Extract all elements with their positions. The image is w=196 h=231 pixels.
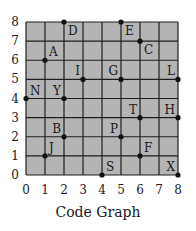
x-tick-label: 3: [79, 183, 87, 197]
point-label-y: Y: [52, 84, 62, 98]
data-point-i: [80, 77, 85, 82]
data-point-x: [175, 172, 180, 177]
data-point-b: [61, 134, 66, 139]
point-label-s: S: [106, 160, 114, 174]
point-label-f: F: [144, 141, 152, 155]
point-label-g: G: [108, 64, 118, 78]
y-tick-label: 7: [11, 34, 19, 48]
point-label-i: I: [75, 64, 80, 78]
y-tick-label: 1: [11, 149, 19, 163]
point-label-n: N: [30, 84, 41, 98]
y-tick-label: 8: [11, 15, 19, 29]
y-tick-label: 3: [11, 111, 19, 125]
data-point-p: [118, 134, 123, 139]
x-tick-label: 5: [117, 183, 125, 197]
point-label-j: J: [47, 141, 54, 155]
point-label-d: D: [68, 24, 78, 38]
code-graph-chart: 012345678012345678DECAIGLNYTHBPJFSX: [0, 0, 196, 231]
x-tick-label: 7: [155, 183, 163, 197]
y-tick-label: 0: [11, 168, 19, 182]
x-tick-label: 4: [98, 183, 106, 197]
data-point-y: [61, 96, 66, 101]
point-label-e: E: [125, 24, 134, 38]
x-tick-label: 0: [22, 183, 30, 197]
chart-title: Code Graph: [0, 204, 196, 220]
data-point-h: [175, 115, 180, 120]
data-point-f: [137, 153, 142, 158]
data-point-n: [23, 96, 28, 101]
point-label-b: B: [52, 122, 61, 136]
point-label-p: P: [110, 122, 118, 136]
data-point-d: [61, 19, 66, 24]
point-label-t: T: [129, 103, 137, 117]
x-tick-label: 1: [41, 183, 49, 197]
x-tick-label: 6: [136, 183, 144, 197]
data-point-e: [118, 19, 123, 24]
data-point-t: [137, 115, 142, 120]
y-tick-label: 4: [11, 92, 19, 106]
y-tick-label: 2: [11, 130, 19, 144]
point-label-c: C: [144, 43, 153, 57]
point-label-x: X: [166, 160, 175, 174]
data-point-l: [175, 77, 180, 82]
point-label-l: L: [167, 64, 175, 78]
data-point-j: [42, 153, 47, 158]
data-point-s: [99, 172, 104, 177]
data-point-c: [137, 39, 142, 44]
y-tick-label: 6: [11, 53, 19, 67]
point-label-h: H: [165, 103, 175, 117]
x-tick-label: 8: [174, 183, 182, 197]
y-tick-label: 5: [11, 72, 19, 86]
data-point-g: [118, 77, 123, 82]
x-tick-label: 2: [60, 183, 68, 197]
point-label-a: A: [48, 45, 58, 59]
data-point-a: [42, 58, 47, 63]
